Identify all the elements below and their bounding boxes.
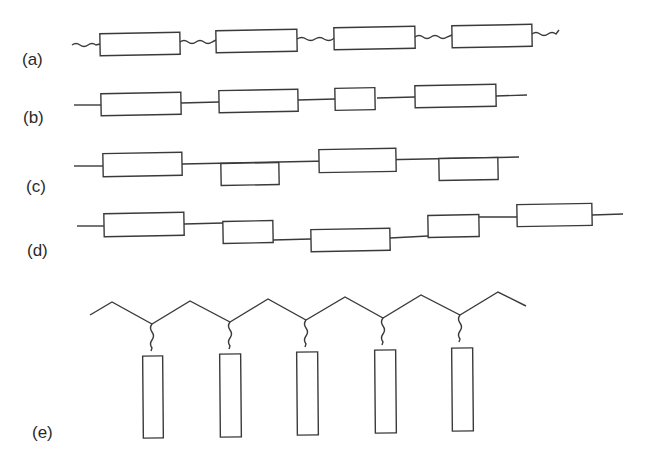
block-below [439,157,498,180]
panel-a-chain [72,24,559,55]
pendant-block [375,350,397,433]
pendant-block [220,354,242,437]
linker [390,236,428,238]
block-below [221,162,279,185]
linker [273,239,311,240]
block [335,88,375,111]
linker [184,223,223,224]
zigzag-backbone [90,292,526,324]
pendant-block [452,348,474,431]
wavy-spacer [305,320,308,347]
wavy-linker [415,35,452,39]
block [219,89,298,112]
panel-c-chain [74,148,519,185]
panel-d-chain [77,203,623,251]
wavy-spacer [151,324,154,351]
block [452,24,532,47]
wavy-spacer [229,322,232,349]
block [319,148,396,172]
block [334,26,415,49]
pendant-block [143,356,164,438]
pendant-block [297,352,319,435]
block [428,215,479,238]
linker [377,97,415,98]
block [103,152,182,176]
block [415,84,496,107]
wavy-linker [532,30,559,36]
block [216,29,297,52]
block [517,203,592,226]
block [100,32,180,55]
linker [496,95,527,96]
panel-e-comb [90,292,526,438]
wavy-linker [297,38,334,41]
wavy-spacer [459,315,462,342]
wavy-linker [180,40,216,44]
block [101,92,181,115]
linker [592,214,623,215]
diagram-canvas [0,0,645,464]
block [311,228,390,251]
block [223,221,273,244]
panel-b-chain [74,84,527,115]
block [104,212,184,236]
wavy-spacer [382,318,385,345]
wavy-linker [72,44,100,47]
linker [181,102,219,103]
linker [298,99,335,100]
